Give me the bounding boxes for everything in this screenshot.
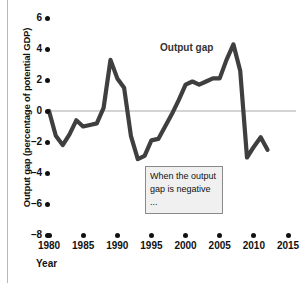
y-tick-dot (45, 140, 50, 145)
x-tick-label: 2000 (169, 240, 203, 251)
y-tick-label: –4 (22, 167, 42, 178)
x-tick-label: 1980 (32, 240, 66, 251)
y-tick-dot (45, 202, 50, 207)
y-tick-label: 2 (22, 74, 42, 85)
y-tick-label: –2 (22, 136, 42, 147)
y-tick-label: 4 (22, 43, 42, 54)
x-axis-title: Year (36, 258, 57, 269)
x-tick-dot (81, 233, 86, 238)
y-tick-dot (45, 171, 50, 176)
y-tick-label: 6 (22, 12, 42, 23)
x-tick-dot (183, 233, 188, 238)
x-tick-label: 2010 (237, 240, 271, 251)
y-tick-label: –6 (22, 198, 42, 209)
annotation-line-2: gap is negative ... (150, 183, 218, 209)
y-tick-dot (45, 78, 50, 83)
y-tick-label: 0 (22, 105, 42, 116)
x-tick-label: 2005 (203, 240, 237, 251)
x-tick-label: 2015 (271, 240, 304, 251)
y-tick-label: –8 (22, 229, 42, 240)
x-tick-label: 1990 (100, 240, 134, 251)
x-tick-dot (47, 233, 52, 238)
y-tick-dot (45, 16, 50, 21)
series-label-output-gap: Output gap (160, 42, 213, 53)
x-tick-label: 1995 (134, 240, 168, 251)
y-tick-dot (45, 47, 50, 52)
x-tick-dot (149, 233, 154, 238)
x-tick-label: 1985 (66, 240, 100, 251)
annotation-line-1: When the output (150, 170, 218, 183)
y-tick-dot (45, 109, 50, 114)
x-tick-dot (286, 233, 291, 238)
x-tick-dot (251, 233, 256, 238)
x-tick-dot (217, 233, 222, 238)
chart-figure: Output gap (percentage of potential GDP)… (0, 0, 304, 283)
x-tick-dot (115, 233, 120, 238)
output-gap-line (49, 44, 268, 159)
annotation-negative-output-gap: When the output gap is negative ... (145, 166, 223, 214)
